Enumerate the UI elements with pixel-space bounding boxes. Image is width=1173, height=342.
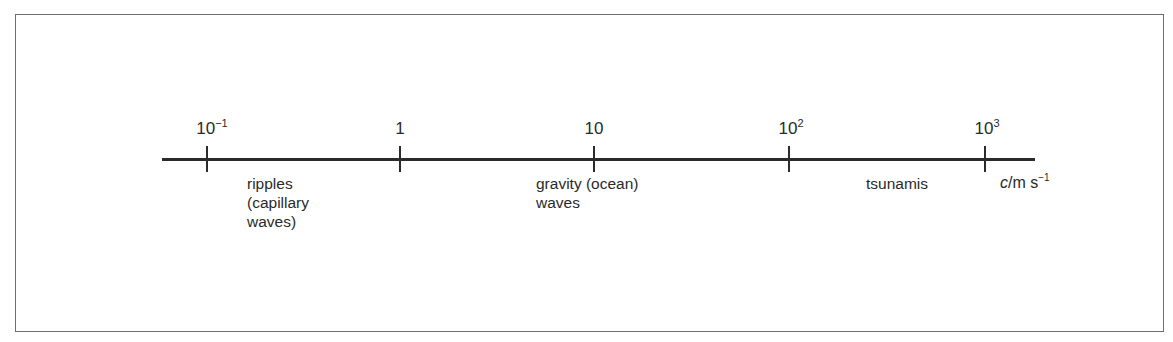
axis-unit-label: c/m s−1 xyxy=(1000,174,1050,192)
region-label-tsunamis: tsunamis xyxy=(866,174,928,193)
tick-label-1000: 103 xyxy=(974,119,999,139)
tick-mark xyxy=(788,146,790,172)
region-label-gravity-waves: gravity (ocean) waves xyxy=(536,174,639,212)
figure-frame xyxy=(15,14,1164,332)
tick-label-10: 10 xyxy=(585,119,604,139)
tick-mark xyxy=(399,146,401,172)
speed-axis-line xyxy=(162,158,1035,161)
tick-label-1: 1 xyxy=(395,119,404,139)
tick-mark xyxy=(593,146,595,172)
region-label-ripples: ripples (capillary waves) xyxy=(247,174,309,231)
tick-label-100: 102 xyxy=(778,119,803,139)
tick-label-0.1: 10−1 xyxy=(196,119,227,139)
tick-mark xyxy=(984,146,986,172)
tick-mark xyxy=(206,146,208,172)
